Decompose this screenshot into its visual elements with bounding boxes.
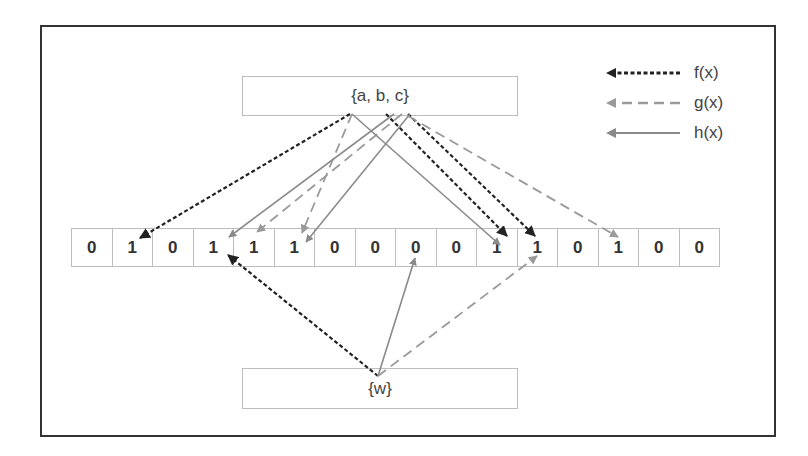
bit-array: 0101110000110100 — [71, 228, 720, 267]
bit-cell: 0 — [315, 228, 356, 267]
legend-item-g: g(x) — [604, 88, 723, 118]
bit-cell: 1 — [599, 228, 640, 267]
legend-label: g(x) — [694, 93, 723, 113]
top-set-label: {a, b, c} — [351, 86, 409, 106]
legend-item-f: f(x) — [604, 58, 723, 88]
bit-cell: 1 — [194, 228, 235, 267]
legend-label: f(x) — [694, 63, 719, 83]
legend: f(x)g(x)h(x) — [604, 58, 723, 148]
bottom-set-label: {w} — [368, 379, 392, 399]
bit-cell: 0 — [437, 228, 478, 267]
legend-label: h(x) — [694, 123, 723, 143]
legend-item-h: h(x) — [604, 118, 723, 148]
bit-cell: 0 — [639, 228, 680, 267]
bit-cell: 1 — [518, 228, 559, 267]
top-set-box: {a, b, c} — [242, 76, 518, 116]
bit-cell: 0 — [680, 228, 721, 267]
legend-arrow-icon — [604, 66, 682, 80]
bit-cell: 1 — [275, 228, 316, 267]
bit-cell: 0 — [153, 228, 194, 267]
legend-arrow-icon — [604, 126, 682, 140]
bit-cell: 0 — [72, 228, 113, 267]
bit-cell: 1 — [113, 228, 154, 267]
bit-cell: 1 — [234, 228, 275, 267]
bottom-set-box: {w} — [242, 368, 518, 409]
bit-cell: 1 — [477, 228, 518, 267]
legend-arrow-icon — [604, 96, 682, 110]
bit-cell: 0 — [396, 228, 437, 267]
bit-cell: 0 — [356, 228, 397, 267]
bit-cell: 0 — [558, 228, 599, 267]
